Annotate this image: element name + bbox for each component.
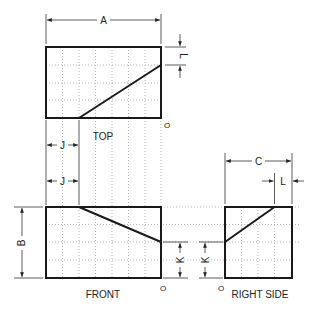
dim-label-k-side: K xyxy=(200,256,211,263)
dim-label-c: C xyxy=(255,156,262,167)
view-label-front: FRONT xyxy=(86,289,120,300)
origin-top: O xyxy=(164,121,170,130)
view-label-right-side: RIGHT SIDE xyxy=(231,289,288,300)
origin-side: O xyxy=(218,284,224,293)
dim-label-l-top: L xyxy=(178,53,189,59)
top-view xyxy=(46,47,161,118)
dim-label-l-side: L xyxy=(280,176,286,187)
view-label-top: TOP xyxy=(93,131,114,142)
dim-label-j-front: J xyxy=(60,176,65,187)
dimension-j-lines xyxy=(46,120,79,205)
dim-label-j-top: J xyxy=(60,140,65,151)
dim-label-b: B xyxy=(16,239,27,246)
right-side-view xyxy=(225,207,292,278)
origin-front: O xyxy=(160,284,166,293)
dim-label-k-front: K xyxy=(175,256,186,263)
orthographic-drawing: A L O TOP J J B K K xyxy=(0,0,319,309)
front-view xyxy=(46,207,161,278)
dim-label-a: A xyxy=(100,15,107,26)
